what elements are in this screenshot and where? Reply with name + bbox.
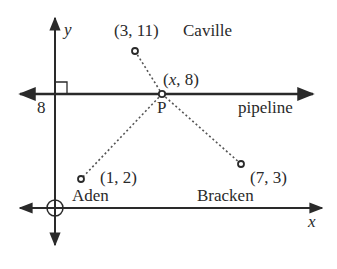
- segment-p-aden: [81, 94, 162, 179]
- coordinate-diagram: y x 8 pipeline (3, 11) Caville (x, 8) P …: [0, 0, 337, 269]
- bracken-coord-label: (7, 3): [250, 168, 287, 187]
- segment-caville-p: [135, 51, 162, 94]
- point-bracken: [238, 161, 244, 167]
- caville-coord-label: (3, 11): [114, 21, 159, 40]
- y-axis-label: y: [62, 20, 72, 39]
- caville-name-label: Caville: [183, 21, 232, 40]
- pipeline-y-value: 8: [37, 98, 46, 117]
- p-name-label: P: [157, 98, 166, 117]
- right-angle-marker: [55, 82, 67, 94]
- point-p: [159, 91, 165, 97]
- point-aden: [78, 176, 84, 182]
- p-coord-label: (x, 8): [163, 70, 199, 89]
- aden-coord-label: (1, 2): [100, 168, 137, 187]
- point-caville: [132, 48, 138, 54]
- aden-name-label: Aden: [72, 186, 109, 205]
- segment-p-bracken: [162, 94, 241, 164]
- x-axis-label: x: [307, 212, 316, 231]
- bracken-name-label: Bracken: [197, 186, 254, 205]
- pipeline-label: pipeline: [238, 98, 293, 117]
